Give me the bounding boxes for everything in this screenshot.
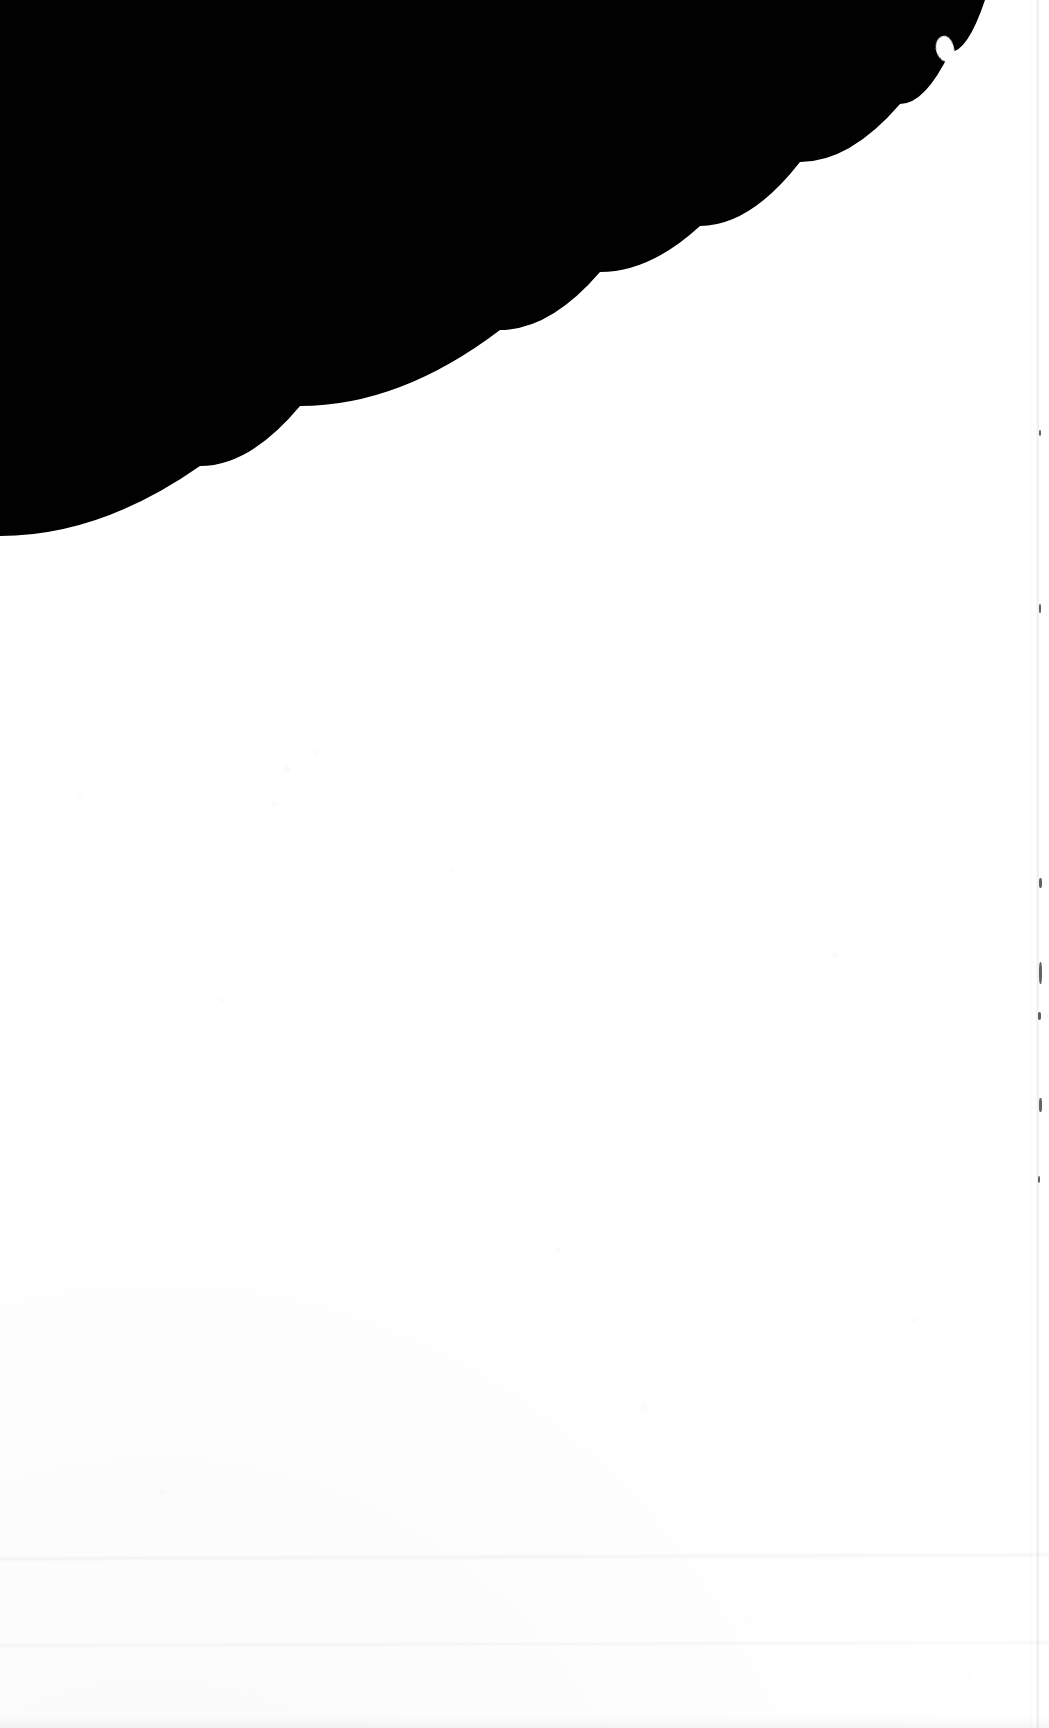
- right-seam-faint-line: [1030, 0, 1031, 1728]
- seam-speck: [1039, 962, 1042, 984]
- seam-speck: [1039, 878, 1042, 888]
- seam-speck: [1039, 1098, 1042, 1112]
- bottom-edge-shade: [0, 1716, 1049, 1728]
- seam-speck: [1038, 1176, 1040, 1183]
- seam-speck: [1038, 1012, 1041, 1020]
- seam-speck: [1039, 604, 1041, 613]
- right-scan-seam: [1036, 0, 1039, 1728]
- scan-canvas: [0, 0, 1049, 1728]
- seam-speck: [1039, 430, 1041, 436]
